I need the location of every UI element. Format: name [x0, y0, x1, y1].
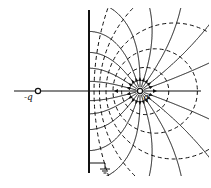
arrowhead-icon	[141, 78, 144, 82]
charge-image-label: -q	[24, 92, 33, 102]
equipotential-circle	[99, 0, 211, 188]
field-line	[89, 2, 140, 87]
arrowhead-icon	[135, 78, 138, 82]
field-line	[89, 93, 137, 114]
ground-symbol-icon	[89, 163, 110, 173]
charge-image-icon	[35, 88, 40, 93]
arrowhead-icon	[149, 86, 153, 89]
arrowhead-icon	[138, 101, 142, 105]
field-line	[88, 94, 137, 129]
arrowhead-icon	[149, 93, 153, 96]
field-line	[143, 17, 211, 89]
charge-real-label: q	[143, 92, 149, 102]
field-line	[89, 68, 137, 89]
field-line	[89, 95, 139, 151]
charge-real-icon	[137, 88, 142, 93]
image-charge-diagram: q-q	[0, 0, 211, 188]
field-line	[141, 95, 152, 188]
field-line	[142, 94, 183, 188]
field-line	[89, 95, 140, 180]
arrowhead-icon	[138, 77, 142, 81]
field-line	[143, 94, 211, 166]
field-line	[144, 60, 211, 90]
field-line	[144, 92, 211, 122]
arrowhead-icon	[135, 100, 138, 104]
field-line	[141, 0, 152, 87]
arrowhead-icon	[144, 79, 148, 83]
